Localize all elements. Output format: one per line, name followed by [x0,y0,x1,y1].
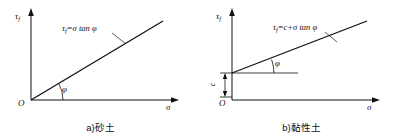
envelope-equation: τf=c+σ tan φ [273,22,317,33]
cohesion-arrow-up [223,73,227,79]
x-axis-label: σ [367,102,371,112]
cohesion-arrow-down [223,91,227,97]
y-axis-label: τf [216,11,221,22]
formula-leader-line [112,33,126,44]
cohesion-label: c [208,83,217,87]
x-axis-label: σ [166,102,170,112]
failure-envelope-line [31,21,163,100]
panel-a-caption: a)砂土 [0,120,201,134]
envelope-equation: τf=σ tan φ [62,23,97,34]
y-axis-arrowhead [28,8,34,16]
x-axis-arrowhead [171,97,179,103]
panel-b-caption: b)黏性土 [201,120,402,134]
panel-cohesive-soil: τf O σ φ c τf=c+σ tan φ b)黏性土 [201,0,402,138]
y-axis-arrowhead [229,8,235,16]
panel-b-plot [201,0,402,138]
friction-angle-label: φ [275,58,280,68]
panel-sandy-soil: τf O σ φ τf=σ tan φ a)砂土 [0,0,201,138]
panel-a-plot [0,0,201,138]
origin-label: O [18,98,25,108]
y-axis-label: τf [15,11,20,22]
figure-container: τf O σ φ τf=σ tan φ a)砂土 [0,0,402,138]
x-axis-arrowhead [372,97,380,103]
friction-angle-label: φ [62,84,67,94]
angle-arc [272,60,274,74]
origin-label: O [219,98,226,108]
